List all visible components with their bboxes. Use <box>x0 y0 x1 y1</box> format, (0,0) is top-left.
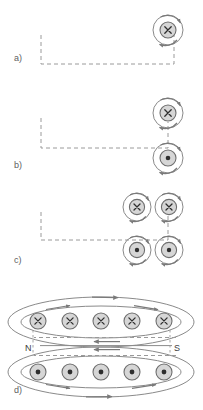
conductor-d-bottom-3 <box>93 364 109 380</box>
conductor-d-top-4 <box>124 313 140 329</box>
current-out-of-page-icon <box>130 370 135 375</box>
current-out-of-page-icon <box>167 248 171 252</box>
panel-label-c: c) <box>14 256 22 265</box>
current-out-of-page-icon <box>162 370 167 375</box>
conductor-d-top-3 <box>93 313 109 329</box>
panel-label-d: d) <box>14 386 22 395</box>
conductor-d-bottom-2 <box>62 364 78 380</box>
current-out-of-page-icon <box>68 370 73 375</box>
conductor-d-bottom-4 <box>124 364 140 380</box>
current-out-of-page-icon <box>36 370 41 375</box>
panel-label-a: a) <box>14 54 22 63</box>
current-out-of-page-icon <box>99 370 104 375</box>
panel-label-b: b) <box>14 161 22 170</box>
current-out-of-page-icon <box>166 156 171 161</box>
conductor-d-top-1 <box>30 313 46 329</box>
pole-label-north: N <box>25 344 32 353</box>
conductor-d-bottom-5 <box>156 364 172 380</box>
conductor-d-top-2 <box>62 313 78 329</box>
conductor-d-bottom-1 <box>30 364 46 380</box>
current-out-of-page-icon <box>135 248 139 252</box>
conductor-d-top-5 <box>156 313 172 329</box>
pole-label-south: S <box>174 344 180 353</box>
